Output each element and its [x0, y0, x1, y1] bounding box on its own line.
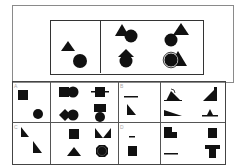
triangle-icon: [61, 41, 75, 51]
question-given-figure: [51, 21, 100, 72]
circle-icon: [33, 109, 43, 119]
sequence-figure-4: [163, 51, 187, 68]
circle-icon: [73, 54, 87, 68]
right-triangle-icon: [127, 104, 136, 115]
sequence-figure-1: [115, 24, 138, 43]
square-icon: [18, 90, 28, 100]
line-icon: [124, 96, 138, 98]
right-triangle-icon: [33, 141, 42, 153]
square-icon: [128, 146, 137, 156]
option-a[interactable]: [13, 82, 118, 122]
option-d[interactable]: [119, 123, 225, 163]
line-icon: [129, 136, 135, 138]
option-b[interactable]: [119, 82, 225, 122]
sequence-figure-3: [118, 49, 134, 68]
right-triangle-icon: [21, 127, 29, 137]
option-c[interactable]: [13, 123, 118, 163]
question-sequence-figures: [101, 21, 202, 72]
sequence-figure-2: [165, 23, 190, 47]
